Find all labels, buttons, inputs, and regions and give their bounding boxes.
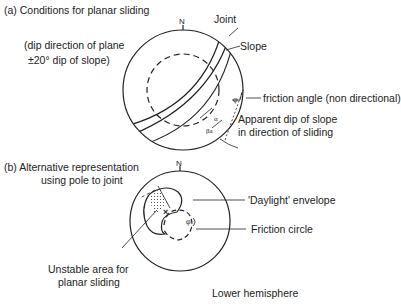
phi-symbol-b: φ [186,217,191,226]
north-label-a: N [179,17,185,26]
friction-angle-label: friction angle (non directional) [263,92,401,104]
condition-line-2: ±20° dip of slope) [28,54,110,66]
friction-circle-label: Friction circle [251,223,313,235]
condition-line-1: (dip direction of plane [24,39,124,51]
part-b-title-line-1: (b) Alternative representation [4,161,139,173]
alpha-symbol: α [214,115,218,123]
daylight-envelope-label: 'Daylight' envelope [248,194,335,206]
stereonet-b [122,166,246,271]
joint-label: Joint [214,13,236,25]
unstable-area-line-2: planar sliding [58,276,120,288]
phi-symbol-a: φ [233,95,238,104]
part-b-title-line-2: using pole to joint [41,174,123,186]
lower-hemisphere-label: Lower hemisphere [212,287,298,299]
slope-label: Slope [240,40,267,52]
part-a-title: (a) Conditions for planar sliding [4,4,149,16]
pole-marker: × [163,207,168,217]
apparent-dip-line-2: in direction of sliding [238,126,333,138]
apparent-dip-line-1: Apparent dip of slope [238,113,337,125]
beta-symbol: βa [206,127,214,135]
unstable-area-line-1: Unstable area for [48,263,129,275]
slope-great-circle [124,42,233,150]
north-label-b: N [176,159,182,168]
